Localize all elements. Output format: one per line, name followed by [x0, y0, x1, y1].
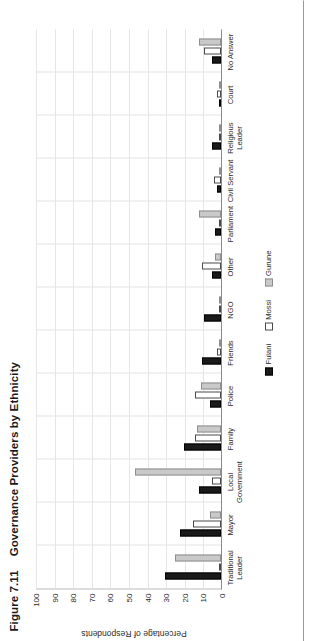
- bar-group: [36, 201, 221, 244]
- bar-group: [36, 373, 221, 416]
- page-title: Figure 7.11Governance Providers by Ethni…: [8, 361, 20, 631]
- x-axis-category-label: Mayor: [226, 503, 235, 546]
- y-axis-tick-label: 90: [50, 593, 59, 602]
- y-axis-tick-label: 80: [69, 593, 78, 602]
- legend-swatch-icon: [265, 367, 273, 375]
- y-axis-tick-label: 60: [106, 593, 115, 602]
- bar-group: [36, 330, 221, 373]
- bar: [219, 305, 221, 312]
- bar: [219, 124, 221, 131]
- bar-group: [36, 416, 221, 459]
- bar: [135, 468, 221, 475]
- legend-label: Mossi: [264, 299, 273, 319]
- bar: [195, 434, 221, 441]
- y-axis-tick-label: 50: [125, 593, 134, 602]
- y-axis-tick-label: 100: [32, 593, 41, 606]
- figure-page: Figure 7.11Governance Providers by Ethni…: [0, 0, 310, 641]
- bar: [197, 425, 221, 432]
- x-axis-category-label: Religious Leader: [226, 116, 244, 159]
- bar: [219, 296, 221, 303]
- bar-group: [36, 459, 221, 502]
- y-axis-tick-label: 30: [162, 593, 171, 602]
- bar: [212, 142, 221, 149]
- chart-legend: FulaniMossiGurune: [264, 250, 273, 375]
- bar: [195, 391, 221, 398]
- bar: [217, 348, 221, 355]
- x-axis-category-label: NGO: [226, 288, 235, 331]
- bar: [199, 210, 221, 217]
- bar: [184, 443, 221, 450]
- bar: [219, 167, 221, 174]
- x-axis-category-label: Other: [226, 245, 235, 288]
- bar: [210, 400, 221, 407]
- figure-title-text: Governance Providers by Ethnicity: [8, 361, 20, 555]
- legend-item: Mossi: [264, 299, 273, 330]
- bar: [202, 262, 221, 269]
- bar-group: [36, 545, 221, 588]
- bar: [204, 314, 221, 321]
- bar-group: [36, 115, 221, 158]
- bar: [199, 486, 221, 493]
- plot-area: 0102030405060708090100: [36, 29, 222, 589]
- bar: [214, 176, 221, 183]
- legend-swatch-icon: [265, 322, 273, 330]
- legend-item: Gurune: [264, 250, 273, 286]
- y-axis-title: Percentage of Respondents: [59, 628, 209, 638]
- x-axis-category-label: Police: [226, 374, 235, 417]
- y-axis-tick-label: 70: [87, 593, 96, 602]
- x-axis-category-label: Civil Servant: [226, 159, 235, 202]
- bar: [219, 99, 221, 106]
- bar: [180, 529, 221, 536]
- figure-number: Figure 7.11: [8, 570, 20, 631]
- y-axis-tick-label: 40: [143, 593, 152, 602]
- bar-group: [36, 72, 221, 115]
- bar-group: [36, 502, 221, 545]
- x-axis-category-label: Traditional Leader: [226, 546, 244, 589]
- legend-label: Fulani: [264, 343, 273, 364]
- bar: [217, 90, 221, 97]
- bar: [201, 382, 221, 389]
- bar: [217, 185, 221, 192]
- y-axis-tick-label: 20: [180, 593, 189, 602]
- x-axis-category-label: Local Government: [226, 460, 244, 503]
- bar: [212, 56, 221, 63]
- x-axis-category-label: Friends: [226, 331, 235, 374]
- bar: [165, 572, 221, 579]
- x-axis-category-label: Parliament: [226, 202, 235, 245]
- bar: [212, 271, 221, 278]
- bar: [219, 133, 221, 140]
- legend-item: Fulani: [264, 343, 273, 375]
- bar: [175, 554, 222, 561]
- x-axis-category-label: No Answer: [226, 30, 235, 73]
- bar: [193, 520, 221, 527]
- bar: [199, 38, 221, 45]
- page-rule: [303, 0, 304, 641]
- bar: [210, 511, 221, 518]
- bar-group: [36, 244, 221, 287]
- bar: [219, 563, 221, 570]
- bar: [212, 477, 221, 484]
- bar: [215, 228, 221, 235]
- bar: [219, 81, 221, 88]
- y-axis-tick-label: 10: [199, 593, 208, 602]
- legend-swatch-icon: [265, 278, 273, 286]
- bar-group: [36, 158, 221, 201]
- y-axis-tick-label: 0: [218, 593, 227, 597]
- bar-group: [36, 29, 221, 72]
- bar: [219, 219, 221, 226]
- bar-chart: 0102030405060708090100 Percentage of Res…: [36, 29, 272, 589]
- bar: [215, 253, 221, 260]
- bar: [202, 357, 221, 364]
- bar: [219, 339, 221, 346]
- bar-group: [36, 287, 221, 330]
- legend-label: Gurune: [264, 250, 273, 275]
- x-axis-category-label: Family: [226, 417, 235, 460]
- x-axis-category-label: Court: [226, 73, 235, 116]
- bar: [204, 47, 221, 54]
